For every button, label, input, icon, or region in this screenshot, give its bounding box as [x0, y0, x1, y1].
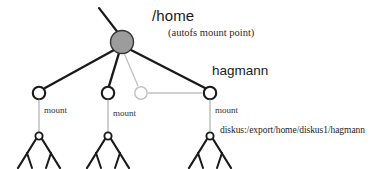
mount-label-1: mount [44, 106, 67, 115]
edge-root-to-child-2 [109, 53, 119, 86]
node-child-3-ghost [135, 87, 147, 99]
node-child-1 [33, 87, 45, 99]
subtree-1-leaf-a [27, 153, 32, 168]
remote-path-label: diskus:/export/home/diskus1/hagmann [220, 126, 365, 136]
edge-root-to-child-3 [124, 53, 138, 86]
node-child-4-hagmann [204, 87, 216, 99]
subtree-2 [87, 132, 129, 168]
subtree-2-leaf-a [96, 153, 101, 168]
subtree-3-leaf-b [217, 153, 222, 168]
subtree-1 [18, 132, 60, 168]
autofs-mount-diagram: /home (autofs mount point) hagmann mount… [0, 0, 379, 169]
diagram-canvas [0, 0, 379, 169]
node-label-hagmann: hagmann [212, 64, 268, 78]
edge-parent-to-root [99, 8, 119, 34]
node-root-home [111, 31, 134, 54]
edge-root-to-child-4 [131, 50, 205, 88]
node-child-2 [102, 87, 114, 99]
edge-root-to-child-1 [45, 50, 114, 88]
subtree-2-leaf-b [115, 153, 120, 168]
root-sublabel: (autofs mount point) [168, 28, 254, 39]
mount-label-2: mount [113, 109, 136, 118]
subtree-3-leaf-a [198, 153, 203, 168]
subtree-1-leaf-b [46, 153, 51, 168]
root-title-label: /home [152, 8, 194, 23]
subtree-3 [189, 132, 231, 168]
mount-label-3: mount [215, 106, 238, 115]
